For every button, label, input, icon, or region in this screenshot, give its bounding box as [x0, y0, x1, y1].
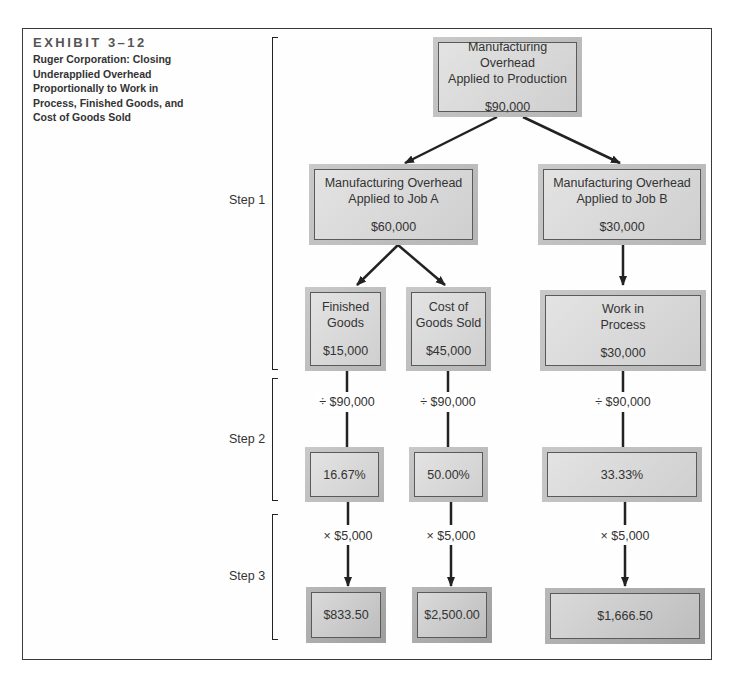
divisor-label-fg: ÷ $90,000: [316, 394, 378, 410]
allocation-fg: $833.50: [306, 587, 386, 643]
multiplier-label-cogs: × $5,000: [423, 528, 478, 544]
allocation-wip: $1,666.50: [545, 588, 705, 644]
node-line1: Manufacturing Overhead: [553, 175, 691, 191]
node-line2: Process: [600, 317, 645, 333]
node-line2: Applied to Job B: [576, 191, 667, 207]
node-line1: Finished: [322, 299, 369, 315]
percentage-value: 33.33%: [601, 467, 643, 483]
allocation-value: $1,666.50: [597, 608, 653, 624]
node-line1: Work in: [602, 301, 644, 317]
allocation-cogs: $2,500.00: [412, 587, 492, 643]
percentage-wip: 33.33%: [542, 447, 702, 502]
node-line2: Goods Sold: [416, 315, 481, 331]
percentage-value: 16.67%: [323, 467, 365, 483]
node-amount: $30,000: [599, 219, 644, 235]
percentage-cogs: 50.00%: [409, 447, 488, 502]
node-line2: Applied to Production: [448, 71, 567, 87]
node-amount: $60,000: [371, 219, 416, 235]
node-amount: $45,000: [426, 343, 471, 359]
node-line1: Manufacturing Overhead: [325, 175, 463, 191]
node-line2: Goods: [327, 315, 364, 331]
node-cost-of-goods-sold: Cost of Goods Sold $45,000: [406, 287, 491, 371]
multiplier-label-wip: × $5,000: [597, 528, 652, 544]
node-overhead-job-b: Manufacturing Overhead Applied to Job B …: [538, 164, 706, 245]
node-line1: Manufacturing Overhead: [439, 39, 576, 71]
node-overhead-applied-production: Manufacturing Overhead Applied to Produc…: [433, 37, 582, 117]
node-amount: $90,000: [485, 99, 530, 115]
node-line1: Cost of: [429, 299, 469, 315]
node-line2: Applied to Job A: [348, 191, 438, 207]
multiplier-label-fg: × $5,000: [320, 528, 375, 544]
percentage-value: 50.00%: [427, 467, 469, 483]
divisor-label-cogs: ÷ $90,000: [417, 394, 479, 410]
divisor-label-wip: ÷ $90,000: [592, 394, 654, 410]
node-overhead-job-a: Manufacturing Overhead Applied to Job A …: [309, 164, 478, 245]
node-work-in-process: Work in Process $30,000: [540, 290, 706, 371]
node-amount: $15,000: [323, 343, 368, 359]
allocation-value: $2,500.00: [424, 607, 480, 623]
percentage-fg: 16.67%: [305, 447, 384, 502]
node-amount: $30,000: [600, 345, 645, 361]
node-finished-goods: Finished Goods $15,000: [305, 287, 386, 371]
allocation-value: $833.50: [323, 607, 368, 623]
